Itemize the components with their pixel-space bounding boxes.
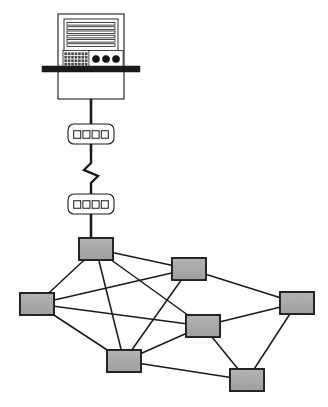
mesh-node-texture: [79, 238, 113, 260]
mesh-node-center: [186, 315, 220, 337]
server-drive-slot: [67, 44, 115, 47]
server-keypad-key: [85, 63, 88, 66]
hub-port: [92, 131, 99, 139]
server-knob: [92, 55, 99, 62]
server-knob: [102, 55, 109, 62]
mesh-node-texture: [172, 258, 206, 280]
server-knobs: [92, 55, 119, 62]
mesh-node-upper-right: [172, 258, 206, 280]
server-keypad-key: [75, 52, 78, 55]
server-keypad-key: [64, 52, 67, 55]
hub-port: [83, 201, 90, 209]
hub-device-1: [68, 124, 114, 144]
server-keypad-key: [78, 56, 81, 59]
server-keypad-key: [71, 59, 74, 62]
mesh-node-texture: [230, 369, 264, 391]
server-drive-slot: [67, 23, 115, 26]
server-keypad-key: [78, 52, 81, 55]
server-keypad-key: [75, 63, 78, 66]
network-topology-diagram: [0, 0, 328, 407]
mesh-node-texture: [186, 315, 220, 337]
server-keypad-key: [81, 56, 84, 59]
server-keypad-key: [81, 52, 84, 55]
server-keypad-key: [71, 56, 74, 59]
server-drive-slot: [67, 35, 115, 38]
server-knob: [112, 55, 119, 62]
hub-port: [74, 201, 81, 209]
mesh-node-bottom-left: [107, 350, 141, 372]
hub-port: [101, 201, 108, 209]
hub-device-2: [68, 194, 114, 214]
mesh-node-bottom-right: [230, 369, 264, 391]
mesh-node-top: [79, 238, 113, 260]
hub-port: [74, 131, 81, 139]
server-keypad-key: [75, 56, 78, 59]
mesh-node-texture: [20, 293, 54, 315]
mesh-node-texture: [107, 350, 141, 372]
hub-port: [101, 131, 108, 139]
diagram-svg: [0, 0, 328, 407]
server-keypad-key: [78, 59, 81, 62]
server-keypad-key: [81, 63, 84, 66]
server-keypad-key: [85, 52, 88, 55]
server-keypad-key: [68, 52, 71, 55]
server-keypad-key: [64, 63, 67, 66]
server-keypad-key: [64, 56, 67, 59]
mesh-node-texture: [280, 292, 314, 314]
server-keypad-key: [85, 59, 88, 62]
server-drive-slot: [67, 31, 115, 34]
server-drive-slot: [67, 40, 115, 43]
server-keypad-key: [68, 56, 71, 59]
mesh-node-left: [20, 293, 54, 315]
server-keypad-key: [71, 63, 74, 66]
server-keypad-key: [71, 52, 74, 55]
server-keypad-key: [64, 59, 67, 62]
server-keypad-key: [68, 59, 71, 62]
server-keypad-key: [68, 63, 71, 66]
mesh-node-right: [280, 292, 314, 314]
hub-port: [92, 201, 99, 209]
server-keypad-key: [75, 59, 78, 62]
server-drive-slot: [67, 27, 115, 30]
server-keypad-key: [78, 63, 81, 66]
server-shelf-bar: [42, 66, 140, 72]
server-keypad-key: [81, 59, 84, 62]
diagram-background: [0, 0, 328, 407]
server-keypad-key: [85, 56, 88, 59]
hub-port: [83, 131, 90, 139]
